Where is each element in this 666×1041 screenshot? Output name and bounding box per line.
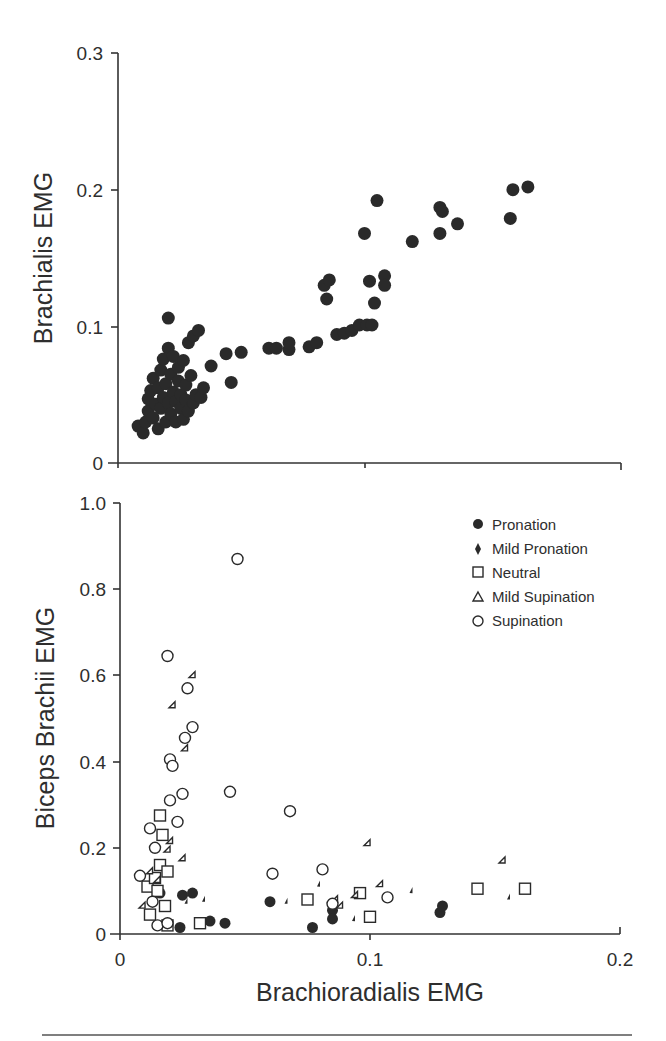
legend-label: Mild Pronation — [492, 540, 588, 557]
filled-circle-marker — [310, 336, 323, 349]
top-y-axis-label: Brachialis EMG — [29, 172, 57, 344]
open-circle-marker — [162, 651, 173, 662]
filled-circle-marker — [197, 381, 210, 394]
filled-circle-marker — [307, 922, 318, 933]
open-circle-marker — [267, 868, 278, 879]
filled-circle-marker — [192, 324, 205, 337]
open-triangle-marker — [169, 702, 175, 708]
legend-label: Supination — [492, 612, 563, 629]
open-circle-marker — [180, 732, 191, 743]
legend-item-mild-supination: Mild Supination — [473, 588, 595, 605]
open-triangle-marker — [182, 745, 188, 751]
filled-diamond-icon — [475, 543, 481, 555]
top-panel: 0.3 0.2 0.1 0 Brachialis EMG — [29, 43, 621, 474]
bottom-data-points — [135, 554, 531, 934]
bottom-x-tick-label: 0.2 — [607, 949, 633, 970]
filled-circle-marker — [451, 217, 464, 230]
open-triangle-marker — [499, 857, 505, 863]
open-circle-marker — [152, 920, 163, 931]
legend: Pronation Mild Pronation Neutral Mild Su… — [473, 516, 595, 629]
bottom-y-tick-label: 0.4 — [80, 752, 107, 773]
filled-circle-marker — [504, 212, 517, 225]
filled-circle-marker — [177, 890, 188, 901]
filled-circle-marker — [175, 922, 186, 933]
filled-diamond-marker — [285, 898, 288, 904]
filled-circle-marker — [162, 312, 175, 325]
filled-circle-icon — [473, 519, 483, 529]
open-circle-icon — [473, 616, 483, 626]
open-triangle-marker — [139, 902, 145, 908]
open-circle-marker — [232, 554, 243, 565]
figure-canvas: 0.3 0.2 0.1 0 Brachialis EMG 1.0 0.8 0.6… — [0, 0, 666, 1041]
filled-circle-marker — [378, 279, 391, 292]
open-triangle-marker — [189, 672, 195, 678]
open-square-marker — [152, 885, 163, 896]
filled-circle-marker — [177, 354, 190, 367]
open-circle-marker — [382, 892, 393, 903]
filled-circle-marker — [506, 183, 519, 196]
filled-circle-marker — [433, 227, 446, 240]
bottom-panel: 1.0 0.8 0.6 0.4 0.2 0 0 0.1 0.2 Brachior… — [31, 493, 633, 1006]
open-circle-marker — [147, 896, 158, 907]
bottom-y-axis-label: Biceps Brachii EMG — [31, 607, 59, 829]
legend-label: Pronation — [492, 516, 556, 533]
filled-circle-marker — [358, 227, 371, 240]
filled-circle-marker — [323, 273, 336, 286]
open-square-marker — [365, 911, 376, 922]
filled-diamond-marker — [317, 881, 320, 887]
filled-circle-marker — [406, 235, 419, 248]
open-triangle-marker — [164, 846, 170, 852]
open-circle-marker — [285, 806, 296, 817]
filled-circle-marker — [270, 342, 283, 355]
filled-circle-marker — [184, 369, 197, 382]
filled-circle-marker — [205, 360, 218, 373]
filled-diamond-marker — [352, 915, 355, 921]
filled-diamond-marker — [507, 894, 510, 900]
top-y-tick-label: 0 — [92, 453, 103, 474]
filled-circle-marker — [225, 376, 238, 389]
open-circle-marker — [150, 842, 161, 853]
filled-circle-marker — [137, 426, 150, 439]
filled-circle-marker — [368, 297, 381, 310]
open-circle-marker — [162, 918, 173, 929]
open-square-marker — [155, 810, 166, 821]
filled-circle-marker — [235, 346, 248, 359]
open-circle-marker — [135, 870, 146, 881]
open-circle-marker — [165, 795, 176, 806]
filled-circle-marker — [320, 293, 333, 306]
open-circle-marker — [225, 786, 236, 797]
filled-circle-marker — [366, 319, 379, 332]
open-square-marker — [145, 909, 156, 920]
filled-circle-marker — [327, 913, 338, 924]
open-square-marker — [195, 918, 206, 929]
open-circle-marker — [177, 788, 188, 799]
filled-circle-marker — [521, 180, 534, 193]
open-circle-marker — [317, 864, 328, 875]
filled-diamond-marker — [410, 887, 413, 893]
open-circle-marker — [172, 816, 183, 827]
emg-scatter-figure: 0.3 0.2 0.1 0 Brachialis EMG 1.0 0.8 0.6… — [0, 0, 666, 1041]
bottom-y-tick-label: 0.8 — [80, 579, 106, 600]
open-square-marker — [160, 901, 171, 912]
x-axis-label: Brachioradialis EMG — [256, 978, 484, 1006]
filled-circle-marker — [437, 901, 448, 912]
legend-label: Mild Supination — [492, 588, 595, 605]
bottom-y-tick-label: 0.2 — [80, 838, 106, 859]
open-circle-marker — [167, 760, 178, 771]
filled-diamond-marker — [202, 896, 205, 902]
open-triangle-icon — [473, 592, 483, 601]
open-triangle-marker — [147, 868, 153, 874]
legend-item-mild-pronation: Mild Pronation — [475, 540, 588, 557]
open-triangle-marker — [377, 881, 383, 887]
open-circle-marker — [182, 683, 193, 694]
top-data-points — [132, 180, 535, 439]
open-square-marker — [157, 829, 168, 840]
open-circle-marker — [187, 722, 198, 733]
open-triangle-marker — [179, 855, 185, 861]
filled-circle-marker — [265, 896, 276, 907]
top-y-tick-label: 0.1 — [77, 317, 103, 338]
open-square-marker — [472, 883, 483, 894]
bottom-y-tick-label: 1.0 — [80, 493, 106, 514]
open-square-icon — [473, 567, 483, 577]
legend-label: Neutral — [492, 564, 540, 581]
